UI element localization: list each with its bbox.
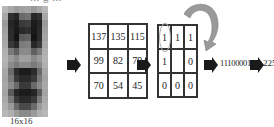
face-pixel (42, 27, 48, 34)
face-pixel (42, 55, 48, 62)
binary-cell: 0 (171, 73, 184, 97)
face-pixel (42, 82, 48, 89)
binary-cell: 1 (158, 49, 171, 73)
face-pixel (42, 68, 48, 75)
binary-center-cell (171, 49, 184, 73)
face-pixel (42, 6, 48, 13)
arrow-right-icon (67, 57, 81, 73)
arrow-right-icon (137, 57, 151, 73)
binary-cell: 0 (184, 73, 197, 97)
face-pixel (42, 89, 48, 96)
decimal-result: 225 (263, 58, 274, 68)
intensity-cell: 135 (108, 24, 127, 49)
face-pixel (42, 96, 48, 103)
arrow-right-icon (204, 57, 218, 73)
intensity-center-cell: 82 (108, 49, 127, 74)
face-size-label: 16x16 (10, 116, 33, 126)
face-pixel (42, 103, 48, 110)
intensity-cell: 70 (89, 73, 108, 98)
face-image-16x16 (2, 6, 48, 117)
face-pixel (42, 62, 48, 69)
face-pixel (42, 13, 48, 20)
face-pixel (42, 41, 48, 48)
face-pixel (42, 34, 48, 41)
face-pixel (42, 75, 48, 82)
start-position-circle (159, 23, 171, 52)
top-caption-fragment: ... g ... (30, 0, 62, 3)
binary-cell: 0 (184, 49, 197, 73)
binary-code: 11100001 (220, 58, 251, 68)
intensity-cell: 45 (128, 73, 147, 98)
face-pixel (42, 48, 48, 55)
arrow-right-icon (250, 57, 264, 73)
face-pixel (42, 20, 48, 27)
binary-cell: 1 (184, 25, 197, 49)
intensity-cell: 99 (89, 49, 108, 74)
intensity-cell: 54 (108, 73, 127, 98)
binary-cell: 0 (158, 73, 171, 97)
intensity-cell: 115 (128, 24, 147, 49)
face-pixel (42, 110, 48, 117)
intensity-cell: 137 (89, 24, 108, 49)
binary-cell: 1 (171, 25, 184, 49)
